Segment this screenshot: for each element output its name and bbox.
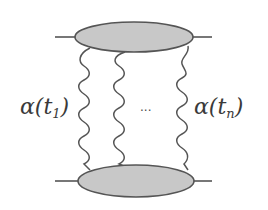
label-alpha-t1: α(t1) <box>20 94 69 121</box>
wavy-exchange-line-1 <box>79 48 90 170</box>
bottom-vertex-blob <box>78 165 194 197</box>
wavy-exchange-line-2 <box>114 52 125 166</box>
feynman-diagram: α(t1) ... α(tn) <box>0 0 268 210</box>
ellipsis-label: ... <box>140 100 151 114</box>
label-alpha-tn: α(tn) <box>194 94 243 121</box>
top-vertex-blob <box>75 22 193 52</box>
wavy-exchange-line-n <box>177 46 189 170</box>
